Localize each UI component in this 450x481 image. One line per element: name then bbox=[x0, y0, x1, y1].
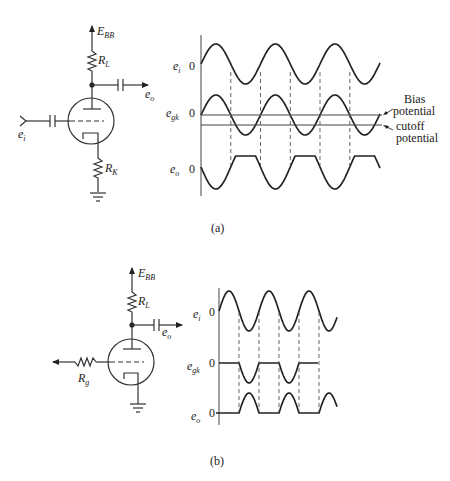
load-resistor-icon bbox=[88, 48, 96, 85]
zero-label-egk-a: 0 bbox=[189, 106, 195, 120]
zero-label-eo-a: 0 bbox=[189, 162, 195, 176]
bias-label-2: potential bbox=[393, 104, 436, 118]
supply-label-a: EBB bbox=[96, 24, 114, 40]
cathode-resistor-icon bbox=[94, 150, 102, 192]
output-label-a: eo bbox=[145, 87, 154, 103]
caption-a: (a) bbox=[211, 221, 224, 235]
row-label-eo-b: eo bbox=[191, 409, 200, 425]
caption-b: (b) bbox=[210, 454, 224, 468]
waveform-ei-a bbox=[201, 44, 380, 84]
cathode-resistor-label-a: RK bbox=[104, 161, 118, 177]
input-terminal-icon bbox=[20, 116, 26, 126]
waveforms-b: ei 0 egk 0 eo 0 bbox=[187, 288, 337, 425]
crossing-markers-a bbox=[231, 72, 350, 165]
cutoff-label-2: potential bbox=[396, 131, 439, 145]
load-resistor-label-a: RL bbox=[97, 53, 110, 69]
ground-icon-b bbox=[130, 404, 146, 412]
output-label-b: eo bbox=[162, 325, 171, 341]
row-label-egk-b: egk bbox=[187, 359, 200, 375]
circuit-a: EBB RL eo ei RK bbox=[18, 24, 154, 201]
row-label-ei-a: ei bbox=[173, 59, 181, 75]
grid-resistor-icon bbox=[75, 358, 96, 366]
waveforms-a: ei 0 egk 0 eo 0 Bias potential cutoff po… bbox=[166, 35, 439, 196]
zero-label-ei-b: 0 bbox=[209, 305, 215, 319]
zero-label-egk-b: 0 bbox=[209, 356, 215, 370]
row-label-egk-a: egk bbox=[166, 106, 179, 122]
cathode-icon-b bbox=[124, 373, 138, 404]
row-label-eo-a: eo bbox=[170, 162, 179, 178]
waveform-eo-a bbox=[201, 156, 380, 189]
supply-label-b: EBB bbox=[137, 266, 155, 282]
grid-resistor-label: Rg bbox=[77, 371, 89, 387]
ground-icon bbox=[90, 193, 106, 201]
waveform-egk-b bbox=[219, 363, 318, 383]
load-resistor-icon-b bbox=[128, 290, 136, 325]
cathode-icon bbox=[83, 133, 98, 150]
zero-label-ei-a: 0 bbox=[189, 59, 195, 73]
zero-label-eo-b: 0 bbox=[209, 406, 215, 420]
circuit-b: EBB RL eo Rg bbox=[53, 266, 182, 412]
crossing-markers-b bbox=[239, 312, 319, 412]
waveform-ei-b bbox=[219, 291, 337, 331]
load-resistor-label-b: RL bbox=[137, 294, 150, 310]
row-label-ei-b: ei bbox=[193, 307, 201, 323]
input-label-a: ei bbox=[18, 127, 26, 143]
